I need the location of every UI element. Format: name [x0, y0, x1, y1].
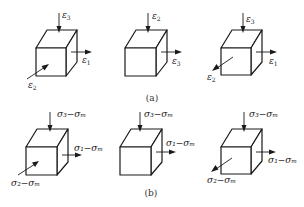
label-sigma3-minus-sigmam: σ₃−σₘ: [144, 109, 173, 119]
label-epsilon2: ε2: [207, 72, 216, 83]
cube-b2: σ₃−σₘ σ₁−σₘ: [120, 109, 195, 175]
label-sigma3-minus-sigmam: σ₃−σₘ: [57, 109, 86, 119]
label-sigma2-minus-sigmam: σ₂−σₘ: [11, 178, 40, 188]
label-epsilon3: ε3: [62, 10, 71, 21]
cube-b1: σ₃−σₘ σ₁−σₘ σ₂−σₘ: [11, 109, 103, 188]
caption-a: (a): [146, 93, 158, 103]
cube-a2: ε2 ε3: [125, 11, 182, 76]
strain-stress-cube-diagram: ε3 ε1 ε2 ε2 ε3: [0, 0, 304, 207]
label-sigma2-minus-sigmam: σ₂−σₘ: [207, 175, 236, 185]
label-sigma1-minus-sigmam: σ₁−σₘ: [74, 143, 103, 153]
label-epsilon2: ε2: [152, 11, 161, 22]
label-sigma1-minus-sigmam: σ₁−σₘ: [166, 138, 195, 148]
cube-a3: ε3 ε1 ε2: [207, 13, 278, 83]
label-sigma3-minus-sigmam: σ₃−σₘ: [249, 109, 278, 119]
cube-b3: σ₃−σₘ σ₁−σₘ σ₂−σₘ: [207, 109, 297, 185]
label-epsilon1: ε1: [82, 55, 91, 66]
label-epsilon2: ε2: [28, 80, 37, 91]
cube-a1: ε3 ε1 ε2: [27, 10, 92, 91]
caption-b: (b): [145, 188, 158, 198]
label-epsilon3: ε3: [172, 56, 181, 67]
label-sigma1-minus-sigmam: σ₁−σₘ: [268, 155, 297, 165]
label-epsilon1: ε1: [269, 56, 278, 67]
label-epsilon3: ε3: [246, 14, 255, 25]
